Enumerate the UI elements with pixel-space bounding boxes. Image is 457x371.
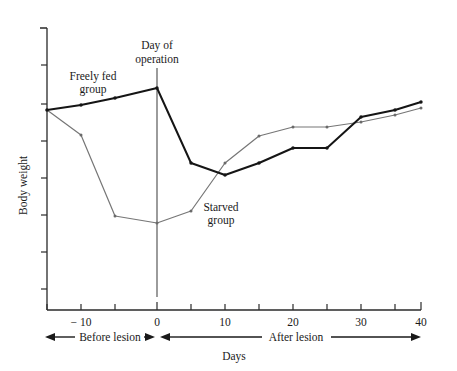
freely-fed-label-line1: Freely fed [70, 70, 117, 83]
data-point [292, 126, 295, 129]
before-lesion-arrow-left-head [45, 333, 55, 341]
before-lesion-arrow-right-head [145, 333, 155, 341]
x-tick-label-thirty: 30 [355, 316, 367, 328]
day-of-operation-label-line2: operation [135, 53, 179, 66]
data-point [393, 108, 396, 111]
data-point [223, 173, 226, 176]
data-point [326, 126, 329, 129]
data-point [360, 121, 363, 124]
data-point [258, 135, 261, 138]
before-lesion-indicator: Before lesion [45, 331, 155, 343]
x-axis-tick-labels: − 10 0 10 20 30 40 [71, 316, 427, 328]
before-lesion-label: Before lesion [79, 331, 141, 343]
data-point [291, 146, 294, 149]
x-axis-title: Days [222, 350, 246, 363]
chart-svg: Body weight − 10 0 10 20 30 40 [0, 0, 457, 371]
after-lesion-arrow-right-head [411, 333, 421, 341]
data-point [113, 96, 116, 99]
data-point [419, 100, 422, 103]
after-lesion-arrow-left-head [160, 333, 170, 341]
freely-fed-label-line2: group [80, 83, 107, 96]
x-tick-label-forty: 40 [415, 316, 427, 328]
data-point [420, 107, 423, 110]
data-point [45, 108, 48, 111]
x-axis [47, 302, 421, 310]
y-axis-line [40, 28, 47, 310]
data-point [155, 86, 158, 89]
y-axis-title: Body weight [17, 155, 30, 215]
data-point [80, 134, 83, 137]
chart-figure: Body weight − 10 0 10 20 30 40 [0, 0, 457, 371]
x-tick-label-ten: 10 [219, 316, 231, 328]
after-lesion-indicator: After lesion [160, 331, 421, 343]
after-lesion-label: After lesion [269, 331, 324, 343]
data-point [114, 215, 117, 218]
y-axis [40, 28, 47, 310]
data-point [156, 222, 159, 225]
starved-label-line2: group [208, 214, 235, 227]
x-tick-label-twenty: 20 [287, 316, 299, 328]
data-point [257, 161, 260, 164]
data-point [325, 146, 328, 149]
data-point [190, 210, 193, 213]
data-point [189, 161, 192, 164]
day-of-operation-label-line1: Day of [141, 39, 173, 52]
data-point [224, 162, 227, 165]
data-point [79, 103, 82, 106]
series-freely-fed-group [45, 86, 422, 176]
data-point [359, 115, 362, 118]
x-tick-label-minus10: − 10 [71, 316, 92, 328]
data-point [394, 114, 397, 117]
x-tick-label-zero: 0 [154, 316, 160, 328]
starved-label-line1: Starved [203, 201, 238, 213]
